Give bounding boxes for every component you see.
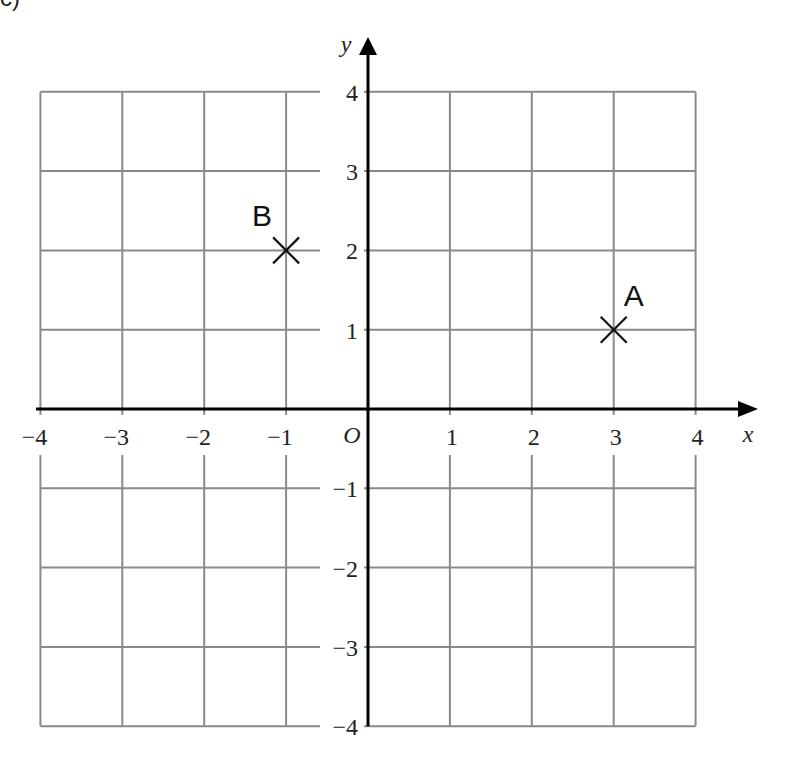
x-tick-label: −3 bbox=[104, 424, 130, 450]
point-a: A bbox=[601, 279, 644, 343]
x-tick-label: 2 bbox=[528, 424, 540, 450]
x-tick-label: 1 bbox=[446, 424, 458, 450]
y-tick-label: 2 bbox=[346, 238, 358, 264]
y-tick-label: 4 bbox=[346, 80, 358, 106]
coordinate-grid: −4−3−2−112344321−1−2−3−4O xy AB bbox=[0, 0, 785, 763]
y-tick-label: −1 bbox=[332, 476, 358, 502]
y-axis-arrow-icon bbox=[359, 37, 377, 55]
point-b: B bbox=[252, 199, 299, 263]
y-tick-label: −2 bbox=[332, 556, 358, 582]
x-tick-label: 4 bbox=[692, 424, 704, 450]
x-tick-label: −1 bbox=[267, 424, 293, 450]
y-axis-label: y bbox=[339, 31, 352, 57]
plotted-points: AB bbox=[252, 199, 644, 342]
origin-label: O bbox=[343, 422, 360, 448]
point-label: B bbox=[252, 199, 272, 232]
x-axis-arrow-icon bbox=[738, 401, 758, 417]
y-tick-label: −4 bbox=[332, 714, 358, 740]
y-tick-label: 1 bbox=[346, 318, 358, 344]
x-tick-label: −4 bbox=[22, 424, 48, 450]
x-tick-label: 3 bbox=[610, 424, 622, 450]
x-tick-label: −2 bbox=[185, 424, 211, 450]
point-label: A bbox=[624, 279, 644, 312]
x-axis-label: x bbox=[742, 421, 754, 447]
y-tick-label: 3 bbox=[346, 159, 358, 185]
axes: xy bbox=[36, 31, 758, 726]
y-tick-label: −3 bbox=[332, 635, 358, 661]
